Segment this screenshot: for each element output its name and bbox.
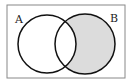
venn-diagram: A B xyxy=(0,0,132,80)
label-a: A xyxy=(14,13,24,26)
label-b: B xyxy=(110,12,118,25)
